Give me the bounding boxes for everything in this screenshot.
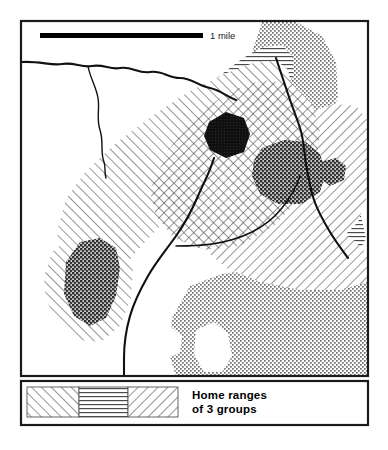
group-2-swatch [79,387,128,417]
legend-caption-line-1: Home ranges [192,389,267,401]
group-3-swatch [128,387,178,417]
scale-bar-line [40,33,203,38]
scale-bar-label: 1 mile [210,30,235,41]
map-svg: 1 mile Home ranges of 3 groups [0,0,388,450]
legend: Home ranges of 3 groups [21,381,368,425]
scale-bar [40,33,203,38]
legend-caption-line-2: of 3 groups [192,403,257,415]
map-figure: 1 mile Home ranges of 3 groups [0,0,388,450]
group-1-swatch [27,387,79,417]
map-content [21,21,368,376]
